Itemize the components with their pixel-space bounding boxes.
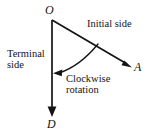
clockwise-rotation-arc <box>53 44 98 76</box>
clockwise-rotation-label: Clockwise rotation <box>66 73 110 96</box>
vertex-label-a: A <box>134 61 141 73</box>
terminal-side-label-line1: Terminal <box>7 48 45 59</box>
rotation-arc-arrowhead-icon <box>53 70 62 77</box>
vertex-label-d: D <box>47 118 56 130</box>
rotation-arc-path <box>60 44 99 73</box>
terminal-side-label: Terminal side <box>7 48 45 71</box>
clockwise-rotation-label-line2: rotation <box>66 84 110 95</box>
terminal-side-ray <box>48 20 57 117</box>
terminal-side-label-line2: side <box>7 59 45 70</box>
angle-diagram: O A D Initial side Terminal side Clockwi… <box>0 0 152 137</box>
vertex-label-o: O <box>45 4 54 16</box>
initial-side-label: Initial side <box>87 19 132 30</box>
clockwise-rotation-label-line1: Clockwise <box>66 73 110 84</box>
terminal-side-arrowhead-icon <box>48 107 57 118</box>
